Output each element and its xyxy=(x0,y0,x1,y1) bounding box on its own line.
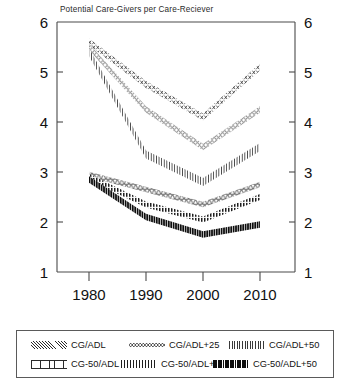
y-tick-right-6: 6 xyxy=(304,14,312,31)
legend-row-1: CG/ADL CG/ADL+25 CG/ADL+50 xyxy=(17,336,333,354)
y-tick-left-2: 2 xyxy=(40,214,48,231)
x-tick-2000: 2000 xyxy=(186,286,219,303)
legend-label-cg-adl: CG/ADL xyxy=(71,340,106,350)
series-layer xyxy=(89,39,260,238)
y-tick-left-1: 1 xyxy=(40,264,48,281)
legend-swatch-cg-adl-25 xyxy=(129,341,165,349)
legend-label-cg50-adl: CG-50/ADL xyxy=(71,359,119,369)
chart-plot: 6 5 4 3 2 1 6 5 4 3 2 1 1980 1990 2000 2… xyxy=(0,0,353,330)
y-tick-right-3: 3 xyxy=(304,164,312,181)
y-tick-left-3: 3 xyxy=(40,164,48,181)
legend-item-cg50-adl-50[interactable]: CG-50/ADL+50 xyxy=(213,355,317,373)
legend: CG/ADL CG/ADL+25 CG/ADL+50 CG-50/ADL CG-… xyxy=(16,330,334,378)
y-tick-left-5: 5 xyxy=(40,64,48,81)
x-tick-1990: 1990 xyxy=(129,286,162,303)
legend-swatch-cg50-adl xyxy=(31,360,67,369)
y-tick-right-5: 5 xyxy=(304,64,312,81)
y-tick-right-4: 4 xyxy=(304,114,312,131)
y-axis-right-labels: 6 5 4 3 2 1 xyxy=(304,14,312,281)
legend-label-cg-adl-25: CG/ADL+25 xyxy=(169,340,219,350)
legend-label-cg-adl-50: CG/ADL+50 xyxy=(269,340,319,350)
y-tick-left-6: 6 xyxy=(40,14,48,31)
series-band xyxy=(89,48,260,186)
x-tick-1980: 1980 xyxy=(72,286,105,303)
legend-item-cg-adl-50[interactable]: CG/ADL+50 xyxy=(229,336,319,354)
legend-item-cg50-adl-25[interactable]: CG-50/ADL+25 xyxy=(121,355,225,373)
legend-item-cg50-adl[interactable]: CG-50/ADL xyxy=(31,355,119,373)
y-tick-right-2: 2 xyxy=(304,214,312,231)
x-tick-2010: 2010 xyxy=(243,286,276,303)
legend-label-cg50-adl-50: CG-50/ADL+50 xyxy=(253,359,317,369)
x-axis-labels: 1980 1990 2000 2010 xyxy=(72,286,276,303)
y-tick-right-1: 1 xyxy=(304,264,312,281)
legend-swatch-cg-adl xyxy=(31,341,67,349)
legend-swatch-cg50-adl-25 xyxy=(121,360,157,368)
legend-swatch-cg50-adl-50 xyxy=(213,360,249,368)
series-band xyxy=(89,39,260,121)
legend-row-2: CG-50/ADL CG-50/ADL+25 CG-50/ADL+50 xyxy=(17,355,333,373)
legend-item-cg-adl-25[interactable]: CG/ADL+25 xyxy=(129,336,219,354)
y-tick-left-4: 4 xyxy=(40,114,48,131)
legend-item-cg-adl[interactable]: CG/ADL xyxy=(31,336,106,354)
chart-container: Potential Care-Givers per Care-Reciever xyxy=(0,0,353,386)
y-axis-left-labels: 6 5 4 3 2 1 xyxy=(40,14,48,281)
legend-swatch-cg-adl-50 xyxy=(229,341,265,349)
